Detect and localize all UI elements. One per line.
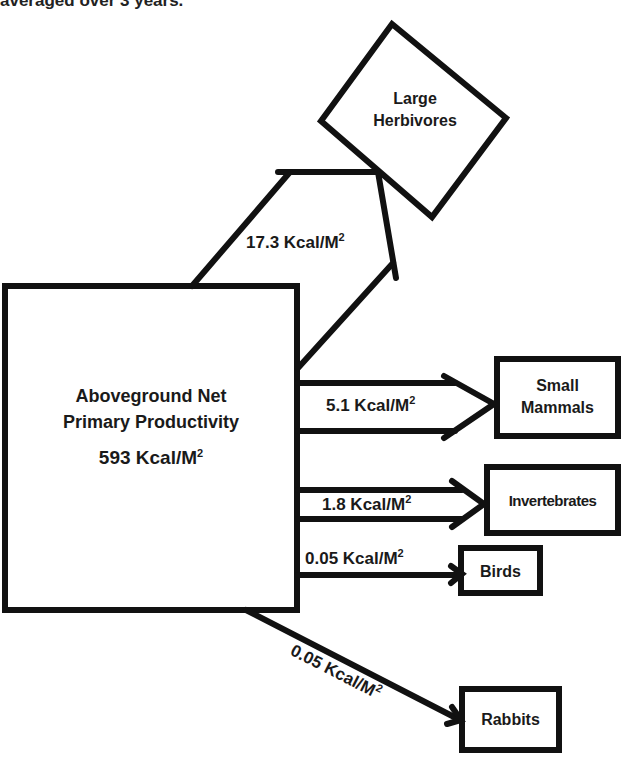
- source-line1: Aboveground Net: [5, 383, 297, 409]
- source-value: 593 Kcal/M2: [5, 445, 297, 471]
- birds-flow-label: 0.05 Kcal/M2: [305, 549, 404, 569]
- birds-label: Birds: [461, 561, 540, 582]
- large-herbivores-flow-label: 17.3 Kcal/M2: [246, 233, 345, 253]
- small-mammals-flow-label: 5.1 Kcal/M2: [326, 396, 415, 416]
- source-line2: Primary Productivity: [5, 409, 297, 435]
- rabbits-label: Rabbits: [462, 709, 559, 730]
- invertebrates-flow-label: 1.8 Kcal/M2: [322, 495, 411, 515]
- source-label: Aboveground Net Primary Productivity 593…: [5, 383, 297, 471]
- invertebrates-label: Invertebrates: [487, 490, 618, 511]
- small-mammals-label: Small Mammals: [497, 375, 618, 419]
- large-herbivores-arrow: [192, 172, 396, 286]
- large-herbivores-label: Large Herbivores: [350, 88, 480, 132]
- rabbits-arrow: [246, 610, 461, 724]
